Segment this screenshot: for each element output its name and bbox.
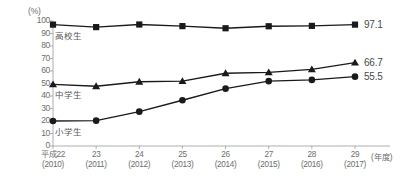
- series-line: [53, 63, 355, 87]
- data-point-marker-circle: [309, 77, 316, 84]
- series-line: [53, 77, 355, 121]
- x-tick-3: 24(2012): [115, 150, 163, 170]
- end-value-1: 97.1: [364, 19, 383, 30]
- x-tick-4: 25(2013): [158, 150, 206, 170]
- series-2: [49, 59, 359, 90]
- x-tick-era: 平成22: [29, 150, 77, 160]
- data-series-group: [49, 21, 359, 124]
- x-axis-unit-label: (年度): [371, 150, 392, 162]
- series-label-1: 高校生: [55, 29, 81, 41]
- x-tick-1: 平成22(2010): [29, 150, 77, 170]
- x-tick-era: 26: [202, 150, 250, 160]
- data-point-marker-circle: [222, 85, 229, 92]
- end-value-2: 66.7: [364, 57, 383, 68]
- x-tick-era: 28: [288, 150, 336, 160]
- series-label-2: 中学生: [55, 88, 81, 100]
- data-point-marker-square: [50, 22, 56, 28]
- data-point-marker-square: [309, 23, 315, 29]
- data-point-marker-square: [352, 22, 358, 28]
- data-point-marker-circle: [352, 73, 359, 80]
- x-tick-7: 28(2016): [288, 150, 336, 170]
- data-point-marker-circle: [265, 78, 272, 85]
- data-point-marker-circle: [179, 97, 186, 104]
- series-1: [50, 21, 358, 31]
- axis-lines: [53, 21, 390, 146]
- data-point-marker-square: [222, 25, 228, 31]
- x-tick-era: 27: [245, 150, 293, 160]
- data-point-marker-circle: [93, 117, 100, 124]
- x-tick-6: 27(2015): [245, 150, 293, 170]
- x-tick-year: (2015): [245, 160, 293, 170]
- end-value-3: 55.5: [364, 71, 383, 82]
- series-label-3: 小学生: [55, 125, 81, 137]
- data-point-marker-square: [179, 23, 185, 29]
- x-tick-5: 26(2014): [202, 150, 250, 170]
- data-point-marker-square: [266, 23, 272, 29]
- x-tick-year: (2010): [29, 160, 77, 170]
- data-point-marker-circle: [136, 108, 143, 115]
- x-tick-marks: [53, 146, 355, 149]
- x-tick-era: 23: [72, 150, 120, 160]
- x-tick-year: (2012): [115, 160, 163, 170]
- data-point-marker-circle: [50, 118, 57, 125]
- x-tick-year: (2014): [202, 160, 250, 170]
- data-point-marker-triangle: [351, 59, 359, 66]
- data-point-marker-square: [93, 24, 99, 30]
- line-chart: (%) 1009080706050403020100 平成22(2010)23(…: [0, 0, 405, 182]
- series-3: [50, 73, 359, 124]
- x-tick-year: (2013): [158, 160, 206, 170]
- data-point-marker-square: [136, 21, 142, 27]
- x-tick-era: 25: [158, 150, 206, 160]
- x-tick-2: 23(2011): [72, 150, 120, 170]
- x-tick-year: (2011): [72, 160, 120, 170]
- x-tick-era: 24: [115, 150, 163, 160]
- x-tick-year: (2016): [288, 160, 336, 170]
